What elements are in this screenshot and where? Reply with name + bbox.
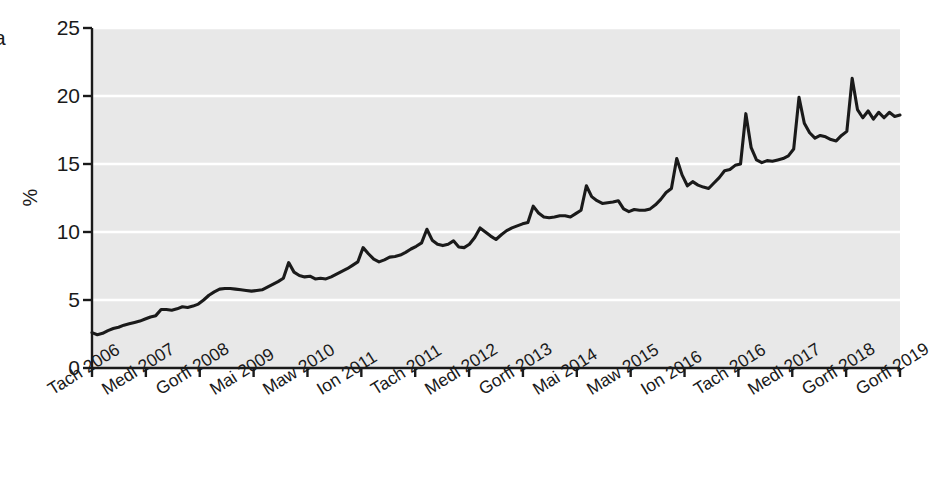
- y-axis-ticks: [83, 28, 92, 368]
- x-axis-ticks: [92, 368, 900, 377]
- plot-background: [92, 28, 900, 368]
